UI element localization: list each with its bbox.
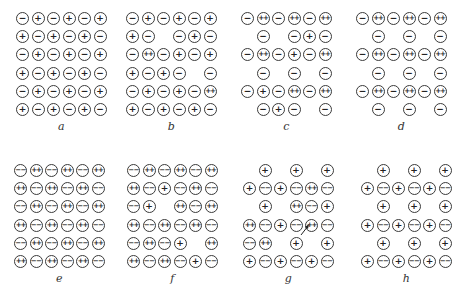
- ion-negative: −: [418, 12, 431, 25]
- ion-double-negative: −−: [14, 164, 27, 177]
- ion-negative: −: [47, 48, 60, 61]
- ion-double-positive: ++: [319, 48, 332, 61]
- ion-positive: +: [204, 12, 217, 25]
- ion-negative: −: [173, 30, 186, 43]
- ion-double-positive: ++: [76, 219, 89, 232]
- ion-negative: −: [356, 85, 369, 98]
- ion-positive: +: [63, 48, 76, 61]
- ion-double-positive: ++: [127, 219, 140, 232]
- ion-positive: +: [321, 164, 334, 177]
- ion-positive: +: [188, 103, 201, 116]
- ion-positive: +: [377, 164, 390, 177]
- ion-positive: +: [126, 67, 139, 80]
- panel-label: c: [276, 120, 296, 133]
- ion-positive: +: [423, 255, 436, 268]
- ion-double-negative: −−: [45, 200, 58, 213]
- ion-negative: −: [204, 30, 217, 43]
- ion-negative: −: [157, 48, 170, 61]
- ion-negative: −: [434, 67, 447, 80]
- ion-positive: +: [361, 255, 374, 268]
- ion-double-negative: −−: [92, 219, 105, 232]
- ion-double-negative: −−: [259, 219, 272, 232]
- ion-positive: +: [32, 85, 45, 98]
- ion-negative: −: [257, 103, 270, 116]
- ion-negative: −: [272, 48, 285, 61]
- ion-double-positive: ++: [305, 182, 318, 195]
- ion-double-positive: ++: [127, 182, 140, 195]
- ion-negative: −: [173, 103, 186, 116]
- ion-double-positive: ++: [76, 255, 89, 268]
- ion-double-positive: ++: [45, 182, 58, 195]
- ion-double-positive: ++: [372, 12, 385, 25]
- ion-double-positive: ++: [61, 164, 74, 177]
- panel-label: h: [396, 272, 416, 285]
- ion-negative: −: [126, 85, 139, 98]
- ion-negative: −: [63, 30, 76, 43]
- ion-double-positive: ++: [434, 12, 447, 25]
- ion-double-negative: −−: [174, 219, 187, 232]
- ion-positive: +: [321, 200, 334, 213]
- ion-double-negative: −−: [259, 182, 272, 195]
- ion-positive: +: [392, 182, 405, 195]
- ion-positive: +: [408, 200, 421, 213]
- panel-g: ++++−−+−−++−−+++−−+++−−+−−++−−−−+++++−−+…: [243, 164, 353, 299]
- ion-double-negative: −−: [158, 164, 171, 177]
- ion-positive: +: [32, 12, 45, 25]
- ion-double-positive: ++: [434, 48, 447, 61]
- ion-positive: +: [78, 30, 91, 43]
- ion-negative: −: [47, 12, 60, 25]
- ion-negative: −: [188, 48, 201, 61]
- ion-positive: +: [305, 255, 318, 268]
- ion-double-negative: −−: [321, 255, 334, 268]
- ion-positive: +: [303, 30, 316, 43]
- ion-positive: +: [173, 12, 186, 25]
- ion-double-negative: −−: [377, 219, 390, 232]
- ion-negative: −: [356, 48, 369, 61]
- ion-positive: +: [272, 103, 285, 116]
- panel-a: −+−+−++−+−+−−+−+−++−+−+−−+−+−++−+−+−a: [16, 12, 126, 152]
- ion-positive: +: [423, 182, 436, 195]
- panel-h: ++++−−+−−+−−++++−−+−−+−−++++−−+−−+−−h: [361, 164, 470, 299]
- ion-positive: +: [47, 103, 60, 116]
- ion-negative: −: [372, 103, 385, 116]
- panel-label: e: [49, 272, 69, 285]
- ion-double-negative: −−: [290, 182, 303, 195]
- ion-positive: +: [189, 255, 202, 268]
- ion-double-positive: ++: [403, 12, 416, 25]
- ion-double-negative: −−: [76, 164, 89, 177]
- ion-negative: −: [387, 12, 400, 25]
- ion-negative: −: [272, 85, 285, 98]
- ion-double-positive: ++: [189, 219, 202, 232]
- ion-double-negative: −−: [127, 164, 140, 177]
- ion-positive: +: [94, 12, 107, 25]
- ion-double-negative: −−: [76, 200, 89, 213]
- ion-negative: −: [387, 85, 400, 98]
- panel-b: −+−+−++−−+−−++−+−++−+−−−+−+−+++−+−+−b: [126, 12, 236, 152]
- ion-double-positive: ++: [243, 219, 256, 232]
- ion-negative: −: [288, 30, 301, 43]
- ion-double-positive: ++: [204, 85, 217, 98]
- ion-positive: +: [204, 48, 217, 61]
- ion-positive: +: [63, 85, 76, 98]
- ion-negative: −: [241, 85, 254, 98]
- ion-double-positive: ++: [205, 237, 218, 250]
- ion-double-positive: ++: [158, 219, 171, 232]
- ion-double-positive: ++: [142, 48, 155, 61]
- ion-double-negative: −−: [174, 182, 187, 195]
- ion-double-negative: −−: [92, 255, 105, 268]
- ion-double-positive: ++: [174, 164, 187, 177]
- panel-c: −++−++−++−−+−−++−+−++−−−−+−++−++−+−−c: [241, 12, 351, 152]
- ion-double-negative: −−: [321, 219, 334, 232]
- ion-negative: −: [241, 12, 254, 25]
- ion-positive: +: [392, 219, 405, 232]
- ion-negative: −: [142, 30, 155, 43]
- ion-positive: +: [274, 255, 287, 268]
- ion-double-negative: −−: [30, 182, 43, 195]
- ion-double-positive: ++: [174, 200, 187, 213]
- ion-negative: −: [126, 12, 139, 25]
- panel-label: f: [162, 272, 182, 285]
- ion-positive: +: [439, 164, 452, 177]
- ion-double-positive: ++: [259, 237, 272, 250]
- ion-negative: −: [403, 67, 416, 80]
- panel-label: a: [51, 120, 71, 133]
